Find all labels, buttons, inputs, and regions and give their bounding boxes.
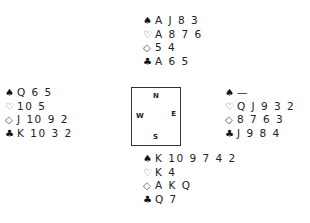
spade-icon: ♠	[5, 86, 17, 100]
west-diamonds: ◇J 10 9 2	[5, 113, 73, 127]
heart-icon: ♡	[225, 100, 237, 114]
west-clubs-cards: K 10 3 2	[17, 127, 73, 141]
south-hearts-cards: K 4	[155, 166, 176, 180]
west-spades-cards: Q 6 5	[17, 86, 53, 100]
north-diamonds: ◇5 4	[143, 41, 203, 55]
east-clubs: ♣J 9 8 4	[225, 127, 295, 141]
east-hearts-cards: Q J 9 3 2	[237, 100, 295, 114]
diamond-icon: ◇	[143, 179, 155, 193]
north-spades: ♠A J 8 3	[143, 14, 203, 28]
east-hand: ♠— ♡Q J 9 3 2 ◇8 7 6 3 ♣J 9 8 4	[225, 86, 295, 140]
north-clubs: ♣A 6 5	[143, 55, 203, 69]
west-hearts-cards: 10 5	[17, 100, 46, 114]
north-hand: ♠A J 8 3 ♡A 8 7 6 ◇5 4 ♣A 6 5	[143, 14, 203, 68]
compass-north: N	[153, 92, 159, 100]
north-spades-cards: A J 8 3	[155, 14, 199, 28]
west-hearts: ♡10 5	[5, 100, 73, 114]
south-spades: ♠K 10 9 7 4 2	[143, 152, 237, 166]
heart-icon: ♡	[5, 100, 17, 114]
club-icon: ♣	[5, 127, 17, 141]
spade-icon: ♠	[225, 86, 237, 100]
east-spades: ♠—	[225, 86, 295, 100]
compass-east: E	[171, 110, 176, 118]
east-spades-cards: —	[237, 86, 249, 100]
club-icon: ♣	[143, 55, 155, 69]
heart-icon: ♡	[143, 166, 155, 180]
spade-icon: ♠	[143, 152, 155, 166]
compass-south: S	[153, 133, 158, 141]
west-clubs: ♣K 10 3 2	[5, 127, 73, 141]
diamond-icon: ◇	[225, 113, 237, 127]
north-clubs-cards: A 6 5	[155, 55, 190, 69]
east-hearts: ♡Q J 9 3 2	[225, 100, 295, 114]
north-hearts-cards: A 8 7 6	[155, 28, 203, 42]
west-diamonds-cards: J 10 9 2	[17, 113, 69, 127]
diamond-icon: ◇	[5, 113, 17, 127]
east-clubs-cards: J 9 8 4	[237, 127, 281, 141]
diamond-icon: ◇	[143, 41, 155, 55]
spade-icon: ♠	[143, 14, 155, 28]
club-icon: ♣	[143, 193, 155, 207]
north-hearts: ♡A 8 7 6	[143, 28, 203, 42]
north-diamonds-cards: 5 4	[155, 41, 176, 55]
club-icon: ♣	[225, 127, 237, 141]
east-diamonds-cards: 8 7 6 3	[237, 113, 284, 127]
compass-west: W	[136, 112, 144, 120]
south-hearts: ♡K 4	[143, 166, 237, 180]
south-clubs: ♣Q 7	[143, 193, 237, 207]
east-diamonds: ◇8 7 6 3	[225, 113, 295, 127]
south-diamonds: ◇A K Q	[143, 179, 237, 193]
west-hand: ♠Q 6 5 ♡10 5 ◇J 10 9 2 ♣K 10 3 2	[5, 86, 73, 140]
south-spades-cards: K 10 9 7 4 2	[155, 152, 237, 166]
south-diamonds-cards: A K Q	[155, 179, 192, 193]
west-spades: ♠Q 6 5	[5, 86, 73, 100]
south-clubs-cards: Q 7	[155, 193, 178, 207]
compass-box: N W E S	[131, 87, 181, 146]
heart-icon: ♡	[143, 28, 155, 42]
south-hand: ♠K 10 9 7 4 2 ♡K 4 ◇A K Q ♣Q 7	[143, 152, 237, 206]
